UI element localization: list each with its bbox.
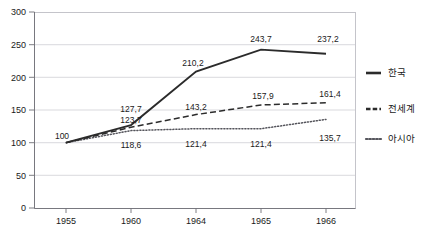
- data-label-world-1965: 157,9: [252, 91, 274, 101]
- x-tick-1955: 1955: [56, 216, 76, 226]
- y-axis: 300 250 200 150 100 50 0: [11, 7, 35, 213]
- data-labels-asia: 118,6 121,4 121,4 135,7: [121, 133, 341, 150]
- x-tick-1966: 1966: [316, 216, 336, 226]
- y-tick-300: 300: [11, 7, 26, 17]
- y-tick-250: 250: [11, 40, 26, 50]
- legend-label-korea: 한국: [388, 67, 406, 78]
- data-label-asia-1964: 121,4: [185, 139, 207, 149]
- x-tick-1964: 1964: [186, 216, 206, 226]
- legend-item-asia[interactable]: 아시아: [366, 133, 415, 144]
- y-tick-150: 150: [11, 105, 26, 115]
- legend-label-world: 전세계: [388, 103, 415, 114]
- y-tick-100: 100: [11, 138, 26, 148]
- data-label-asia-1965: 121,4: [250, 139, 272, 149]
- data-label-korea-1955: 100: [55, 131, 69, 141]
- data-label-asia-1960: 118,6: [121, 140, 142, 150]
- y-tick-0: 0: [21, 203, 26, 213]
- x-tick-1965: 1965: [251, 216, 271, 226]
- data-labels-korea: 100 127,7 210,2 243,7 237,2: [55, 34, 339, 141]
- legend-label-asia: 아시아: [388, 133, 415, 144]
- data-label-asia-1966: 135,7: [319, 133, 341, 143]
- data-label-world-1960: 123,7: [120, 115, 142, 125]
- data-label-world-1966: 161,4: [319, 89, 341, 99]
- data-label-korea-1960: 127,7: [120, 104, 142, 114]
- x-tick-1960: 1960: [121, 216, 141, 226]
- legend-item-korea[interactable]: 한국: [366, 67, 406, 78]
- data-label-world-1964: 143,2: [185, 102, 207, 112]
- chart-legend: 한국 전세계 아시아: [366, 67, 415, 144]
- data-label-korea-1965: 243,7: [250, 34, 272, 44]
- legend-item-world[interactable]: 전세계: [366, 103, 415, 114]
- y-tick-50: 50: [16, 171, 26, 181]
- chart-canvas: 300 250 200 150 100 50 0 1955 1960 1964 …: [0, 0, 434, 238]
- y-tick-200: 200: [11, 73, 26, 83]
- data-label-korea-1966: 237,2: [317, 34, 339, 44]
- x-axis: 1955 1960 1964 1965 1966: [35, 209, 356, 227]
- data-label-korea-1964: 210,2: [182, 58, 204, 68]
- line-chart: 300 250 200 150 100 50 0 1955 1960 1964 …: [0, 0, 434, 238]
